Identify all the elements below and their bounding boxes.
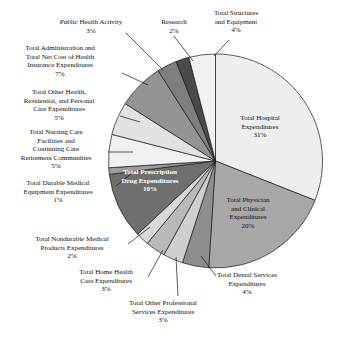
label-hospital: Total HospitalExpenditures 31% (223, 114, 297, 140)
leader-line-administration (122, 73, 148, 85)
label-other-professional-pct: 3% (108, 316, 218, 325)
label-structures-pct: 4% (198, 26, 274, 35)
label-hospital-pct: 31% (223, 131, 297, 140)
label-physician-pct: 20% (215, 222, 281, 231)
label-durable-pct: 1% (6, 196, 110, 205)
leader-line-other-professional (176, 257, 178, 296)
label-dental-pct: 4% (196, 288, 298, 297)
label-physician-name: Total Physicianand ClinicalExpenditures (226, 196, 269, 221)
label-public-health-name: Public Health Activity (60, 18, 122, 26)
label-structures: Total Structuresand Equipment 4% (198, 9, 274, 35)
label-nursing: Total Nursing CareFacilities andContinui… (4, 128, 108, 171)
label-nondurable-pct: 2% (16, 252, 128, 261)
leader-line-public-health (126, 33, 163, 70)
leader-line-home-health (148, 250, 163, 277)
label-other-health-pct: 5% (6, 114, 112, 123)
leader-line-structures (214, 40, 229, 56)
label-durable: Total Durable MedicalEquipment Expenditu… (6, 179, 110, 205)
label-nondurable-name: Total Nondurable MedicalProducts Expendi… (35, 235, 109, 252)
label-dental-name: Total Dental ServicesExpenditures (217, 271, 277, 288)
label-prescription: Total PrescriptionDrug Expenditures 10% (104, 168, 196, 194)
label-public-health-pct: 3% (43, 27, 139, 36)
label-other-health: Total Other Health,Residential, and Pers… (6, 88, 112, 122)
label-structures-name: Total Structuresand Equipment (214, 9, 258, 26)
label-other-professional-name: Total Other ProfessionalServices Expendi… (129, 299, 197, 316)
label-research-name: Research (161, 18, 187, 26)
label-administration-name: Total Administration andTotal Net Cost o… (25, 44, 95, 69)
pie-slices-group (108, 54, 322, 268)
label-hospital-name: Total HospitalExpenditures (240, 114, 280, 131)
label-physician: Total Physicianand ClinicalExpenditures … (215, 196, 281, 230)
label-home-health-pct: 3% (62, 285, 150, 294)
label-other-professional: Total Other ProfessionalServices Expendi… (108, 299, 218, 325)
label-nondurable: Total Nondurable MedicalProducts Expendi… (16, 235, 128, 261)
label-prescription-name: Total PrescriptionDrug Expenditures (121, 168, 178, 185)
label-nursing-name: Total Nursing CareFacilities andContinui… (21, 128, 91, 162)
label-administration-pct: 7% (8, 70, 112, 79)
label-home-health: Total Home HealthCare Expenditures 3% (62, 268, 150, 294)
label-dental: Total Dental ServicesExpenditures 4% (196, 271, 298, 297)
label-home-health-name: Total Home HealthCare Expenditures (79, 268, 132, 285)
label-research: Research 2% (148, 18, 200, 35)
label-public-health: Public Health Activity 3% (43, 18, 139, 35)
leader-line-research (174, 36, 193, 61)
label-research-pct: 2% (148, 27, 200, 36)
label-nursing-pct: 5% (4, 162, 108, 171)
pie-chart: Public Health Activity 3% Research 2% To… (0, 0, 339, 346)
label-other-health-name: Total Other Health,Residential, and Pers… (24, 88, 95, 113)
label-durable-name: Total Durable MedicalEquipment Expenditu… (23, 179, 92, 196)
label-administration: Total Administration andTotal Net Cost o… (8, 44, 112, 78)
label-prescription-pct: 10% (104, 185, 196, 194)
